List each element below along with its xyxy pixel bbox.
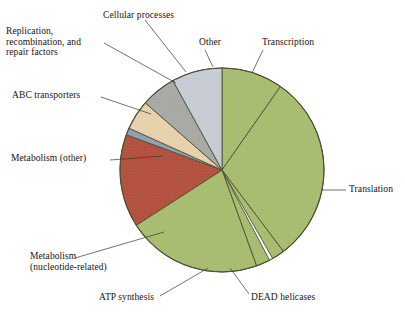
label-abc-transporters: ABC transporters [12,90,80,101]
label-transcription: Transcription [262,37,314,48]
label-translation: Translation [349,184,393,195]
label-atp-synthesis: ATP synthesis [99,292,154,303]
label-metabolism-nucleotide-line1: Metabolism [30,251,76,261]
label-metabolism-nucleotide-line2: (nucleotide-related) [30,262,107,272]
leader-line-other [205,50,213,67]
label-replication: Replication, recombination, and repair f… [6,26,98,58]
pie-chart-figure: Replication, recombination, and repair f… [0,0,405,322]
label-dead-helicases: DEAD helicases [251,292,315,303]
pie-slices-texture [120,68,324,272]
label-replication-line1: Replication, [6,26,53,36]
label-replication-line3: repair factors [6,47,58,57]
leader-line-transcription [252,50,263,73]
leader-line-dead-helicases [230,268,249,294]
label-metabolism-other: Metabolism (other) [11,153,86,164]
label-other: Other [199,37,221,48]
label-replication-line2: recombination, and [6,37,81,47]
leader-line-atp-synthesis [160,268,208,296]
label-cellular-processes: Cellular processes [103,10,174,21]
leader-line-cellular-processes [145,20,186,72]
label-metabolism-nucleotide: Metabolism (nucleotide-related) [30,251,128,272]
leader-line-replication [104,43,176,83]
